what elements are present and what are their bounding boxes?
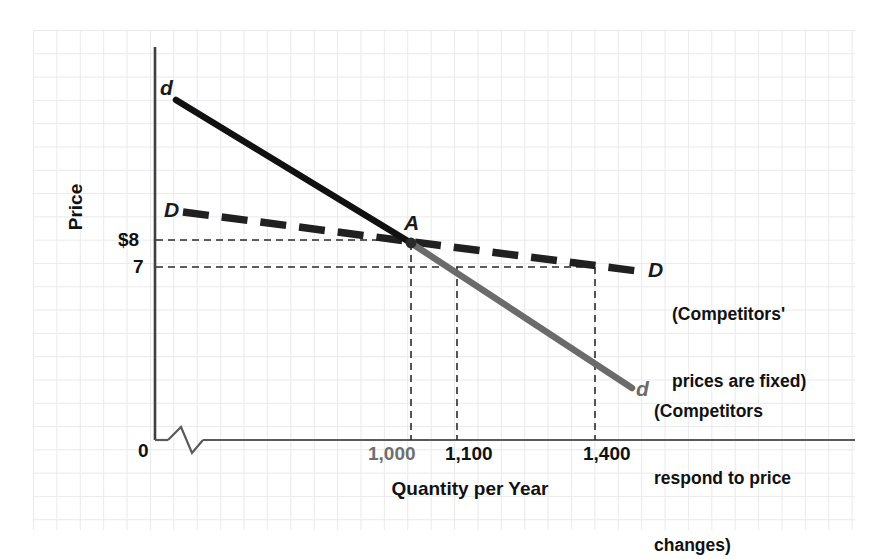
curve-label-d-bottom: d [636, 377, 649, 401]
curve-label-D-right: D [648, 258, 663, 282]
annotation-respond-line-1: (Competitors [654, 400, 791, 422]
annotation-competitors-respond: (Competitors respond to price changes) [654, 355, 791, 559]
x-tick-label-0: 0 [138, 440, 149, 462]
point-A-marker [406, 238, 417, 249]
annotation-fixed-line-1: (Competitors' [672, 303, 806, 325]
x-tick-label-1400: 1,400 [583, 443, 631, 465]
annotation-respond-line-2: respond to price [654, 467, 791, 489]
curve-label-D-left: D [164, 198, 179, 222]
curve-label-d-top: d [160, 76, 173, 100]
axis-break-icon [168, 427, 203, 453]
annotation-respond-line-3: changes) [654, 534, 791, 556]
curve-d-upper-segment [176, 100, 411, 243]
point-A-label: A [404, 211, 419, 235]
x-axis-title: Quantity per Year [320, 478, 620, 500]
y-tick-label-7: 7 [133, 256, 144, 278]
y-axis-title: Price [65, 167, 87, 247]
x-tick-label-1100: 1,100 [445, 443, 493, 465]
x-tick-label-1000: 1,000 [368, 443, 416, 465]
y-tick-label-8: $8 [118, 229, 139, 251]
curve-d-lower-segment [411, 243, 632, 388]
